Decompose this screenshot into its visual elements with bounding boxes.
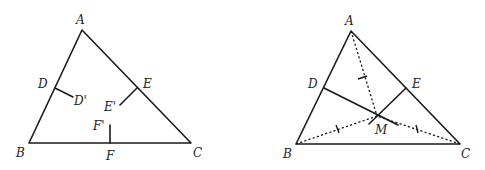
tick-mark-cm	[416, 125, 418, 133]
label-e: E	[142, 77, 152, 91]
label-d-prime: D'	[73, 94, 87, 108]
label-a: A	[344, 14, 354, 28]
segment-ee-prime	[120, 88, 137, 105]
label-f-prime: F'	[92, 119, 105, 133]
right-figure: A B C D E M	[282, 14, 470, 161]
label-d: D	[307, 77, 318, 91]
left-figure: A B C D D' E E' F F'	[15, 13, 202, 163]
label-m: M	[374, 123, 388, 137]
label-e-prime: E'	[103, 100, 116, 114]
geometry-diagram: A B C D D' E E' F F' A B C D E M	[0, 0, 485, 170]
label-e: E	[411, 77, 421, 91]
label-b: B	[282, 147, 292, 161]
label-b: B	[15, 146, 25, 160]
segment-e-to-m	[369, 88, 406, 124]
label-c: C	[193, 146, 202, 160]
label-d: D	[37, 77, 48, 91]
label-a: A	[75, 13, 85, 27]
label-f: F	[105, 149, 115, 163]
label-c: C	[461, 147, 470, 161]
segment-dd-prime	[55, 88, 73, 97]
